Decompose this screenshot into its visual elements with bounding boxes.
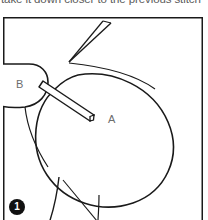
figure-illustration: A B xyxy=(3,17,203,220)
instruction-caption: take it down closer to the previous stit… xyxy=(0,0,208,15)
label-b: B xyxy=(16,78,23,90)
screenshot-root: take it down closer to the previous stit… xyxy=(0,0,208,220)
instruction-caption-text: take it down closer to the previous stit… xyxy=(1,0,201,7)
step-number-badge: 1 xyxy=(9,199,25,215)
label-a: A xyxy=(108,113,116,125)
needle-tip xyxy=(90,115,94,121)
figure-panel: A B xyxy=(3,17,203,220)
